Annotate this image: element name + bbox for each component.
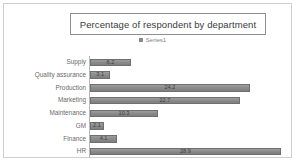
category-label-row: Maintenance xyxy=(18,107,89,120)
chart-title-box: Percentage of respondent by department xyxy=(70,13,266,35)
category-label-row: GM xyxy=(18,120,89,133)
category-axis-label: HR xyxy=(77,148,86,154)
category-axis-label: Marketing xyxy=(58,97,86,103)
category-label-row: Quality assurance xyxy=(18,69,89,82)
bar-value-label: 6.2 xyxy=(107,60,115,66)
category-axis-label: Production xyxy=(55,85,86,91)
chart-frame: Percentage of respondent by department S… xyxy=(3,3,292,158)
category-axis-label: GM xyxy=(76,123,86,129)
bar-row: 3.1 xyxy=(90,69,288,82)
bar: 28.9 xyxy=(90,148,281,156)
bar-row: 2.1 xyxy=(90,120,288,133)
legend-square-icon xyxy=(139,38,143,42)
bar: 3.1 xyxy=(90,71,110,79)
category-label-row: Marketing xyxy=(18,94,89,107)
category-label-row: Supply xyxy=(18,56,89,69)
bar-row: 10.3 xyxy=(90,107,288,120)
bar-value-label: 10.3 xyxy=(119,111,130,117)
bar-value-label: 24.2 xyxy=(164,85,175,91)
category-axis-label: Finance xyxy=(63,136,86,142)
page-title: Percentage of respondent by department xyxy=(80,19,257,30)
legend-entry-label: Series1 xyxy=(146,37,166,43)
bar-value-label: 2.1 xyxy=(93,123,101,129)
bar: 2.1 xyxy=(90,122,104,130)
bar-value-label: 22.7 xyxy=(159,98,170,104)
category-label-row: Finance xyxy=(18,133,89,146)
bar-value-label: 3.1 xyxy=(96,72,104,78)
bar: 24.2 xyxy=(90,84,250,92)
bar: 10.3 xyxy=(90,110,158,118)
category-label-row: HR xyxy=(18,145,89,158)
bar-row: 28.9 xyxy=(90,145,288,158)
bars-container: 6.23.124.222.710.32.14.128.9 xyxy=(90,56,288,158)
bar-row: 6.2 xyxy=(90,56,288,69)
bar: 4.1 xyxy=(90,135,117,143)
bar-row: 22.7 xyxy=(90,94,288,107)
category-axis-label: Supply xyxy=(66,59,86,65)
bar-value-label: 4.1 xyxy=(100,136,108,142)
bar-row: 24.2 xyxy=(90,82,288,95)
category-axis-label: Maintenance xyxy=(49,110,86,116)
bar: 22.7 xyxy=(90,97,240,105)
category-label-row: Production xyxy=(18,82,89,95)
bar-value-label: 28.9 xyxy=(180,149,191,155)
chart-legend: Series1 xyxy=(4,37,297,43)
bar: 6.2 xyxy=(90,59,131,67)
plot-area: SupplyQuality assuranceProductionMarketi… xyxy=(18,56,288,158)
bar-row: 4.1 xyxy=(90,133,288,146)
category-axis-label: Quality assurance xyxy=(35,72,86,78)
category-axis: SupplyQuality assuranceProductionMarketi… xyxy=(18,56,89,158)
